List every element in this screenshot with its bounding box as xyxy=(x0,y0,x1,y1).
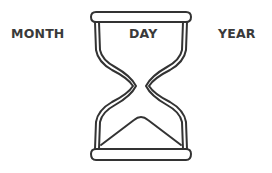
sand-pile xyxy=(101,117,181,145)
hourglass-icon xyxy=(0,0,272,173)
bottom-cap xyxy=(91,149,191,160)
top-cap xyxy=(91,12,191,22)
